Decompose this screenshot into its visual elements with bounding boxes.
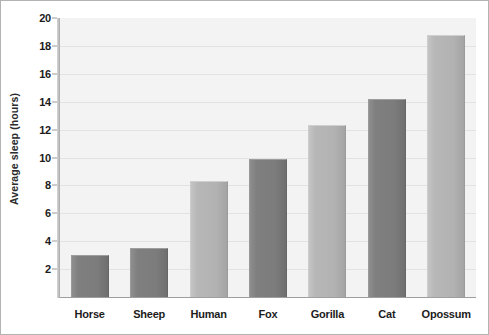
y-tick-label: 18	[39, 40, 51, 52]
y-tick-label: 2	[45, 263, 51, 275]
bar-opossum	[427, 35, 465, 297]
bar-sheep	[130, 248, 168, 297]
y-axis-tick-labels: 2468101214161820	[25, 1, 57, 335]
y-tick-label: 20	[39, 12, 51, 24]
y-tick-label: 14	[39, 96, 51, 108]
bar-slot	[60, 18, 119, 297]
bar-gorilla	[308, 125, 346, 297]
bar-fox	[249, 159, 287, 297]
x-tick-label: Horse	[60, 301, 119, 329]
bar-chart-figure: Average sleep (hours) 2468101214161820 H…	[0, 0, 489, 335]
x-tick-label: Opossum	[417, 301, 476, 329]
bar-slot	[298, 18, 357, 297]
bar-slot	[357, 18, 416, 297]
y-tick-label: 6	[45, 207, 51, 219]
y-tick-label: 8	[45, 179, 51, 191]
bar-human	[190, 181, 228, 297]
y-axis-title-text: Average sleep (hours)	[8, 93, 20, 205]
bar-series	[60, 18, 476, 297]
bar-horse	[71, 255, 109, 297]
bar-slot	[238, 18, 297, 297]
plot-area	[60, 18, 476, 297]
bar-slot	[417, 18, 476, 297]
y-tick-label: 16	[39, 68, 51, 80]
x-axis-tick-labels: HorseSheepHumanFoxGorillaCatOpossum	[60, 301, 476, 329]
y-axis-title: Average sleep (hours)	[3, 1, 25, 297]
x-tick-label: Sheep	[119, 301, 178, 329]
y-tick-label: 12	[39, 124, 51, 136]
x-tick-label: Cat	[357, 301, 416, 329]
x-tick-label: Gorilla	[298, 301, 357, 329]
y-tick-label: 10	[39, 152, 51, 164]
y-tick-label: 4	[45, 235, 51, 247]
x-tick-label: Human	[179, 301, 238, 329]
x-tick-label: Fox	[238, 301, 297, 329]
bar-slot	[179, 18, 238, 297]
bar-cat	[368, 99, 406, 297]
bar-slot	[119, 18, 178, 297]
